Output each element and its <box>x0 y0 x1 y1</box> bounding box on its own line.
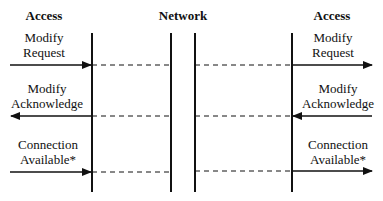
sequence-diagram-canvas <box>0 0 383 201</box>
